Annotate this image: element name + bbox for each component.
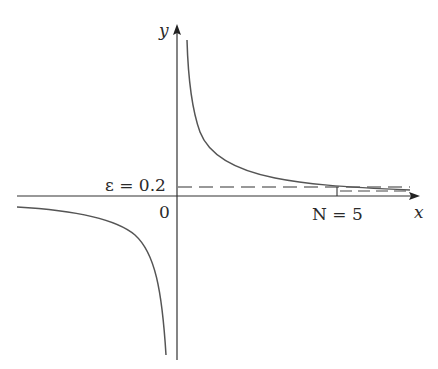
hyperbola-diagram: y x 0 ε = 0.2 N = 5 xyxy=(0,0,438,369)
curve-right-branch xyxy=(187,40,410,190)
epsilon-label: ε = 0.2 xyxy=(105,175,166,195)
x-axis-label: x xyxy=(414,202,424,222)
y-axis-label: y xyxy=(158,20,169,40)
curve-left-branch xyxy=(17,207,166,355)
origin-label: 0 xyxy=(159,202,170,222)
N-label: N = 5 xyxy=(312,204,363,224)
